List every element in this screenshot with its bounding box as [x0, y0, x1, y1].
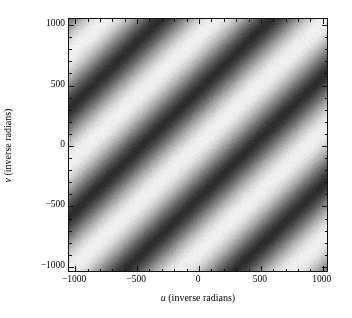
y-major-tick-right: [322, 267, 327, 268]
x-minor-tick: [88, 269, 89, 272]
x-minor-tick: [112, 269, 113, 272]
x-minor-tick-top: [310, 19, 311, 22]
y-minor-tick-right: [325, 49, 328, 50]
x-minor-tick-top: [149, 19, 150, 22]
x-major-tick-top: [75, 19, 76, 24]
y-minor-tick: [69, 98, 72, 99]
x-minor-tick-top: [187, 19, 188, 22]
y-tick-label: −500: [45, 201, 65, 211]
y-major-tick: [69, 146, 74, 147]
y-major-tick: [69, 25, 74, 26]
x-minor-tick-top: [224, 19, 225, 22]
x-minor-tick-top: [249, 19, 250, 22]
x-minor-tick: [298, 269, 299, 272]
x-minor-tick: [125, 269, 126, 272]
y-minor-tick-right: [325, 170, 328, 171]
x-minor-tick: [224, 269, 225, 272]
y-minor-tick-right: [325, 98, 328, 99]
x-minor-tick-top: [100, 19, 101, 22]
y-minor-tick-right: [325, 255, 328, 256]
y-minor-tick-right: [325, 243, 328, 244]
y-minor-tick-right: [325, 194, 328, 195]
x-minor-tick-top: [112, 19, 113, 22]
y-minor-tick-right: [325, 134, 328, 135]
x-minor-tick-top: [273, 19, 274, 22]
x-tick-label: −1000: [62, 275, 86, 285]
x-minor-tick-top: [236, 19, 237, 22]
x-minor-tick: [100, 269, 101, 272]
y-minor-tick: [69, 37, 72, 38]
x-major-tick-top: [199, 19, 200, 24]
x-major-tick-top: [261, 19, 262, 24]
y-minor-tick: [69, 243, 72, 244]
x-tick-label: −500: [126, 275, 146, 285]
y-tick-label: 1000: [46, 19, 65, 29]
x-minor-tick-top: [286, 19, 287, 22]
y-minor-tick-right: [325, 73, 328, 74]
x-major-tick: [199, 266, 200, 271]
y-major-tick-right: [322, 146, 327, 147]
x-minor-tick-top: [211, 19, 212, 22]
y-axis-units: (inverse radians): [3, 108, 14, 175]
x-minor-tick: [149, 269, 150, 272]
x-axis-label: u (inverse radians): [68, 292, 328, 303]
x-minor-tick-top: [125, 19, 126, 22]
y-major-tick-right: [322, 86, 327, 87]
x-major-tick-top: [323, 19, 324, 24]
y-minor-tick-right: [325, 122, 328, 123]
x-major-tick: [137, 266, 138, 271]
x-minor-tick: [273, 269, 274, 272]
x-tick-label: 500: [253, 275, 267, 285]
y-major-tick: [69, 86, 74, 87]
y-minor-tick: [69, 158, 72, 159]
x-minor-tick: [286, 269, 287, 272]
y-minor-tick: [69, 255, 72, 256]
x-minor-tick: [187, 269, 188, 272]
x-major-tick-top: [137, 19, 138, 24]
heatmap-image: [69, 19, 327, 271]
x-minor-tick-top: [174, 19, 175, 22]
y-minor-tick: [69, 194, 72, 195]
y-axis-label-rotated: v (inverse radians): [3, 108, 14, 182]
y-tick-label: 0: [60, 140, 65, 150]
x-major-tick: [75, 266, 76, 271]
y-minor-tick: [69, 61, 72, 62]
y-minor-tick: [69, 231, 72, 232]
y-minor-tick-right: [325, 61, 328, 62]
x-tick-label: 1000: [312, 275, 331, 285]
y-major-tick: [69, 206, 74, 207]
y-minor-tick: [69, 49, 72, 50]
y-tick-label: 500: [51, 80, 65, 90]
y-minor-tick-right: [325, 110, 328, 111]
y-minor-tick-right: [325, 37, 328, 38]
figure-canvas: −1000−50005001000 −1000−50005001000 u (i…: [0, 0, 352, 318]
y-major-tick: [69, 267, 74, 268]
x-major-tick: [261, 266, 262, 271]
x-minor-tick: [310, 269, 311, 272]
y-minor-tick: [69, 122, 72, 123]
y-minor-tick-right: [325, 158, 328, 159]
x-minor-tick: [174, 269, 175, 272]
plot-area: [68, 18, 328, 272]
y-minor-tick: [69, 73, 72, 74]
x-minor-tick: [249, 269, 250, 272]
y-minor-tick: [69, 219, 72, 220]
y-major-tick-right: [322, 25, 327, 26]
y-major-tick-right: [322, 206, 327, 207]
y-minor-tick-right: [325, 231, 328, 232]
y-minor-tick: [69, 182, 72, 183]
x-minor-tick-top: [162, 19, 163, 22]
y-minor-tick: [69, 170, 72, 171]
x-minor-tick: [236, 269, 237, 272]
y-minor-tick-right: [325, 219, 328, 220]
x-minor-tick: [162, 269, 163, 272]
y-tick-label: −1000: [41, 261, 65, 271]
y-minor-tick-right: [325, 182, 328, 183]
y-minor-tick: [69, 134, 72, 135]
x-axis-units: (inverse radians): [168, 292, 235, 303]
x-tick-label: 0: [196, 275, 201, 285]
y-axis-label: v (inverse radians): [0, 18, 16, 272]
y-minor-tick: [69, 110, 72, 111]
x-minor-tick: [211, 269, 212, 272]
x-minor-tick-top: [298, 19, 299, 22]
